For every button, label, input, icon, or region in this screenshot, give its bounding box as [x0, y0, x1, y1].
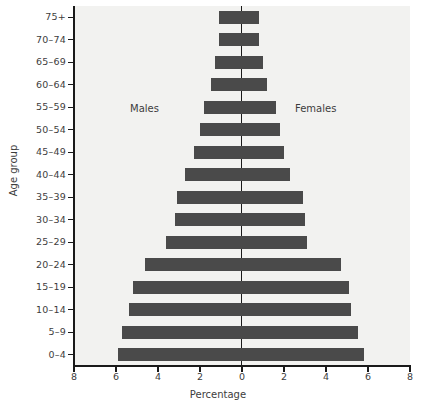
y-tick-mark-70-74 [68, 39, 73, 40]
bar-females-45-49 [242, 146, 284, 159]
y-tick-label-45-49: 45–49 [18, 146, 66, 157]
bar-males-55-59 [204, 101, 242, 114]
y-tick-label-5-9: 5–9 [18, 326, 66, 337]
y-tick-mark-0-4 [68, 354, 73, 355]
bar-females-5-9 [242, 326, 358, 339]
bar-males-0-4 [118, 348, 242, 361]
x-axis-title: Percentage [0, 389, 436, 400]
y-tick-mark-30-34 [68, 219, 73, 220]
series-annotation-males: Males [130, 103, 159, 114]
y-tick-label-0-4: 0–4 [18, 349, 66, 360]
population-pyramid-chart: 0–45–910–1415–1920–2425–2930–3435–3940–4… [0, 0, 436, 410]
y-tick-label-20-24: 20–24 [18, 259, 66, 270]
series-annotation-females: Females [295, 103, 336, 114]
x-tick-label-7: 6 [358, 371, 378, 382]
y-tick-mark-60-64 [68, 84, 73, 85]
y-tick-label-65-69: 65–69 [18, 56, 66, 67]
x-tick-label-0: 8 [64, 371, 84, 382]
bar-males-75+ [219, 11, 242, 24]
y-tick-label-70-74: 70–74 [18, 34, 66, 45]
x-tick-label-1: 6 [106, 371, 126, 382]
bar-males-70-74 [219, 33, 242, 46]
y-tick-label-15-19: 15–19 [18, 281, 66, 292]
y-tick-mark-45-49 [68, 152, 73, 153]
bar-males-65-69 [215, 56, 242, 69]
bar-females-30-34 [242, 213, 305, 226]
bar-males-20-24 [145, 258, 242, 271]
x-tick-label-8: 8 [400, 371, 420, 382]
x-tick-label-6: 4 [316, 371, 336, 382]
bar-females-10-14 [242, 303, 351, 316]
bar-females-40-44 [242, 168, 290, 181]
y-tick-label-25-29: 25–29 [18, 236, 66, 247]
y-tick-label-40-44: 40–44 [18, 169, 66, 180]
bar-females-75+ [242, 11, 259, 24]
bar-males-30-34 [175, 213, 242, 226]
bar-females-35-39 [242, 191, 303, 204]
x-tick-label-3: 2 [190, 371, 210, 382]
bar-females-15-19 [242, 281, 349, 294]
y-tick-label-60-64: 60–64 [18, 79, 66, 90]
bar-males-50-54 [200, 123, 242, 136]
bar-males-40-44 [185, 168, 242, 181]
bar-males-35-39 [177, 191, 242, 204]
bar-males-25-29 [166, 236, 242, 249]
y-tick-mark-5-9 [68, 332, 73, 333]
bar-females-55-59 [242, 101, 276, 114]
x-tick-label-2: 4 [148, 371, 168, 382]
bar-males-45-49 [194, 146, 242, 159]
y-tick-mark-10-14 [68, 309, 73, 310]
y-tick-mark-20-24 [68, 264, 73, 265]
y-tick-mark-35-39 [68, 197, 73, 198]
bar-females-65-69 [242, 56, 263, 69]
y-tick-mark-75+ [68, 17, 73, 18]
y-tick-mark-40-44 [68, 174, 73, 175]
x-tick-label-5: 2 [274, 371, 294, 382]
bar-males-60-64 [211, 78, 243, 91]
bar-males-10-14 [129, 303, 242, 316]
y-tick-label-30-34: 30–34 [18, 214, 66, 225]
y-axis-title: Age group [8, 136, 19, 206]
y-tick-mark-15-19 [68, 287, 73, 288]
bar-females-20-24 [242, 258, 341, 271]
y-tick-label-35-39: 35–39 [18, 191, 66, 202]
bar-females-25-29 [242, 236, 307, 249]
x-tick-label-4: 0 [232, 371, 252, 382]
y-tick-label-50-54: 50–54 [18, 124, 66, 135]
y-tick-mark-55-59 [68, 107, 73, 108]
bar-females-70-74 [242, 33, 259, 46]
bar-males-5-9 [122, 326, 242, 339]
bar-females-0-4 [242, 348, 364, 361]
y-tick-mark-65-69 [68, 62, 73, 63]
y-tick-label-10-14: 10–14 [18, 304, 66, 315]
y-axis-spine [73, 6, 75, 366]
bar-females-60-64 [242, 78, 267, 91]
bar-females-50-54 [242, 123, 280, 136]
y-tick-label-75+: 75+ [18, 11, 66, 22]
y-tick-mark-25-29 [68, 242, 73, 243]
y-tick-mark-50-54 [68, 129, 73, 130]
y-tick-label-55-59: 55–59 [18, 101, 66, 112]
bar-males-15-19 [133, 281, 242, 294]
